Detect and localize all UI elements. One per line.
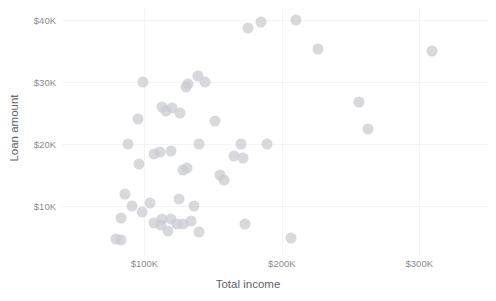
data-point[interactable]: [116, 212, 127, 223]
data-point[interactable]: [122, 139, 133, 150]
x-tick-label: $100K: [131, 258, 158, 269]
data-point[interactable]: [242, 23, 253, 34]
data-point[interactable]: [177, 165, 188, 176]
data-point[interactable]: [194, 138, 205, 149]
data-point[interactable]: [173, 193, 184, 204]
data-point[interactable]: [286, 233, 297, 244]
data-point[interactable]: [162, 226, 173, 237]
data-point[interactable]: [209, 115, 220, 126]
gridline-horizontal: [62, 82, 488, 83]
data-point[interactable]: [180, 82, 191, 93]
y-tick-label: $10K: [34, 201, 56, 212]
gridline-vertical: [419, 8, 420, 256]
data-point[interactable]: [161, 105, 172, 116]
x-axis-title: Total income: [0, 278, 496, 290]
data-point[interactable]: [194, 226, 205, 237]
y-tick-label: $30K: [34, 77, 56, 88]
data-point[interactable]: [353, 96, 364, 107]
data-point[interactable]: [116, 234, 127, 245]
x-tick-label: $300K: [406, 258, 433, 269]
data-point[interactable]: [238, 153, 249, 164]
data-point[interactable]: [136, 206, 147, 217]
gridline-vertical: [144, 8, 145, 256]
y-tick-label: $20K: [34, 139, 56, 150]
data-point[interactable]: [188, 201, 199, 212]
data-point[interactable]: [132, 113, 143, 124]
data-point[interactable]: [363, 123, 374, 134]
data-point[interactable]: [312, 43, 323, 54]
data-point[interactable]: [290, 15, 301, 26]
gridline-horizontal: [62, 20, 488, 21]
data-point[interactable]: [138, 77, 149, 88]
data-point[interactable]: [256, 16, 267, 27]
scatter-plot-chart: $10K$20K$30K$40K $100K$200K$300K Total i…: [0, 0, 496, 301]
data-point[interactable]: [175, 108, 186, 119]
data-point[interactable]: [199, 77, 210, 88]
y-tick-label: $40K: [34, 15, 56, 26]
gridline-vertical: [282, 8, 283, 256]
data-point[interactable]: [235, 138, 246, 149]
data-point[interactable]: [426, 45, 437, 56]
data-point[interactable]: [165, 145, 176, 156]
plot-area: [62, 8, 488, 256]
data-point[interactable]: [177, 219, 188, 230]
x-tick-label: $200K: [268, 258, 295, 269]
data-point[interactable]: [133, 158, 144, 169]
y-axis-title: Loan amount: [8, 68, 20, 188]
x-axis-tick-labels: $100K$200K$300K: [62, 258, 488, 274]
data-point[interactable]: [219, 174, 230, 185]
data-point[interactable]: [239, 219, 250, 230]
data-point[interactable]: [120, 189, 131, 200]
data-point[interactable]: [261, 139, 272, 150]
data-point[interactable]: [149, 149, 160, 160]
data-point[interactable]: [144, 198, 155, 209]
